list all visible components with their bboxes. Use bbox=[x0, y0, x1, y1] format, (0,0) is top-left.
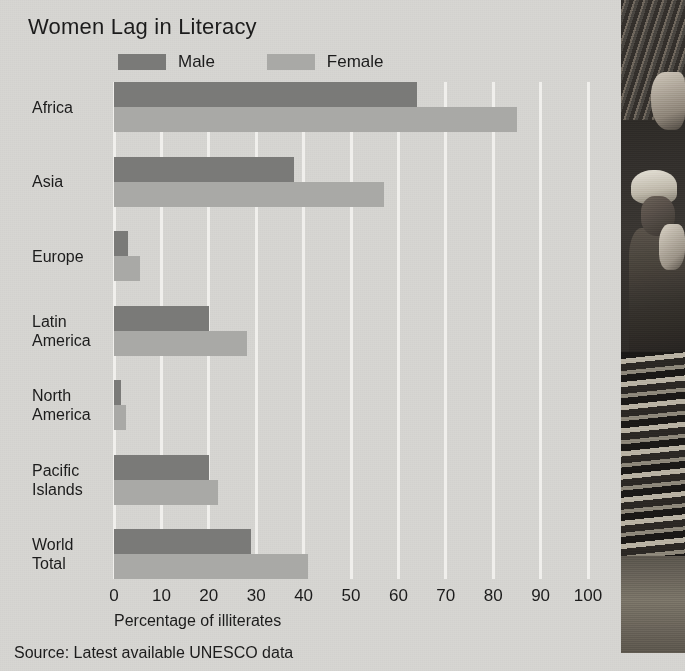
plot-area bbox=[114, 82, 588, 579]
bar-europe-male bbox=[114, 231, 128, 256]
page-title: Women Lag in Literacy bbox=[28, 14, 257, 40]
bar-north-america-male bbox=[114, 380, 121, 405]
legend-label-male: Male bbox=[178, 52, 215, 72]
category-label-north-america: North America bbox=[32, 386, 91, 424]
category-label-pacific-islands: Pacific Islands bbox=[32, 461, 83, 499]
bar-pacific-islands-female bbox=[114, 480, 218, 505]
photo-grain-overlay bbox=[621, 0, 685, 653]
bar-world-total-male bbox=[114, 529, 251, 554]
legend-entry-female: Female bbox=[267, 52, 384, 72]
category-label-europe: Europe bbox=[32, 247, 84, 266]
gridline-100 bbox=[587, 82, 590, 579]
bar-latin-america-male bbox=[114, 306, 209, 331]
category-label-africa: Africa bbox=[32, 98, 73, 117]
bar-asia-male bbox=[114, 157, 294, 182]
category-label-asia: Asia bbox=[32, 172, 63, 191]
category-label-latin-america: Latin America bbox=[32, 312, 91, 350]
woman-carrying-load-photo bbox=[621, 0, 685, 653]
bar-pacific-islands-male bbox=[114, 455, 209, 480]
bar-europe-female bbox=[114, 256, 140, 281]
gridline-60 bbox=[397, 82, 400, 579]
bar-africa-female bbox=[114, 107, 517, 132]
gridline-80 bbox=[492, 82, 495, 579]
gridline-50 bbox=[350, 82, 353, 579]
legend-entry-male: Male bbox=[118, 52, 215, 72]
legend-swatch-female bbox=[267, 54, 315, 70]
legend-label-female: Female bbox=[327, 52, 384, 72]
gridline-40 bbox=[302, 82, 305, 579]
bar-africa-male bbox=[114, 82, 417, 107]
legend-swatch-male bbox=[118, 54, 166, 70]
bar-asia-female bbox=[114, 182, 384, 207]
source-note: Source: Latest available UNESCO data bbox=[14, 644, 293, 662]
bar-latin-america-female bbox=[114, 331, 247, 356]
gridline-90 bbox=[539, 82, 542, 579]
gridline-70 bbox=[444, 82, 447, 579]
bar-world-total-female bbox=[114, 554, 308, 579]
legend: Male Female bbox=[118, 52, 384, 72]
category-label-world-total: World Total bbox=[32, 535, 74, 573]
bar-north-america-female bbox=[114, 405, 126, 430]
